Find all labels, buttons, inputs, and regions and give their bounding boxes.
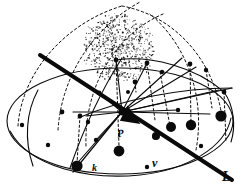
label-line-k: k [92,163,97,173]
stipple-mark [119,29,120,30]
stipple-mark [144,31,145,32]
stipple-mark [128,29,129,31]
stipple-mark [85,48,86,49]
stipple-mark [135,63,136,64]
stipple-mark [150,41,152,42]
stipple-mark [111,30,112,31]
stipple-mark [144,69,145,70]
stipple-mark [130,69,131,70]
stipple-mark [84,60,85,61]
stipple-mark [97,26,99,27]
stipple-mark [124,27,125,28]
stipple-mark [107,22,108,23]
stipple-mark [106,74,107,75]
stipple-mark [127,16,128,18]
stipple-mark [131,27,132,28]
stipple-mark [109,69,111,70]
stipple-mark [94,66,95,67]
stipple-mark [133,46,135,47]
dot-arc-10 [78,114,83,119]
dot-base-3 [46,143,50,147]
stipple-mark [97,37,98,39]
stipple-mark [144,41,145,42]
stipple-mark [100,55,101,56]
stipple-mark [100,22,101,23]
stipple-mark [118,49,119,50]
stipple-mark [121,38,122,40]
stipple-mark [113,27,114,28]
stipple-mark [98,22,99,23]
stipple-mark [149,54,150,55]
stipple-mark [121,73,122,75]
stipple-mark [148,49,149,51]
stipple-mark [108,27,109,28]
stipple-mark [89,54,90,55]
large-dot-4 [166,122,176,132]
stipple-mark [125,37,126,38]
stipple-mark [126,43,127,44]
stipple-mark [138,40,139,41]
stipple-mark [104,23,106,24]
stipple-mark [92,45,93,46]
stipple-mark [110,48,112,50]
stipple-mark [139,59,141,61]
stipple-mark [126,30,128,31]
stipple-mark [118,70,120,71]
stipple-mark [140,37,141,38]
stipple-mark [115,73,116,74]
stipple-mark [131,50,132,51]
stipple-mark [142,53,143,54]
stipple-mark [109,72,110,73]
stipple-mark [114,45,115,46]
stipple-mark [102,25,103,26]
stipple-mark [134,34,135,35]
dot-arc-4 [188,62,193,67]
stipple-mark [135,69,136,70]
stipple-mark [116,46,117,48]
stipple-mark [115,37,116,39]
stipple-mark [129,61,130,63]
stipple-mark [126,45,127,46]
ray-7 [122,112,210,114]
stipple-mark [134,49,136,50]
stipple-mark [146,57,147,58]
stipple-mark [102,29,104,30]
stipple-mark [112,47,114,49]
stipple-mark [138,48,139,50]
stipple-mark [131,57,132,58]
stipple-mark [145,52,146,53]
stipple-mark [138,60,139,62]
stipple-mark [119,56,120,57]
stipple-mark [92,50,94,51]
stipple-mark [121,72,122,73]
stipple-mark [106,38,108,39]
drop-7 [77,116,80,163]
stipple-mark [102,73,103,74]
stipple-mark [86,51,87,52]
stipple-mark [126,47,127,48]
stipple-mark [103,69,104,70]
stipple-mark [114,13,115,14]
stipple-mark [144,64,145,65]
stipple-mark [114,73,115,75]
stipple-mark [90,43,92,44]
stipple-mark [122,36,124,37]
stipple-mark [129,77,130,78]
stipple-mark [127,79,128,80]
stipple-mark [127,38,128,39]
stipple-mark [135,24,137,25]
stipple-mark [110,77,111,78]
stipple-mark [121,75,122,76]
stipple-mark [120,37,121,38]
stipple-mark [119,35,120,36]
stipple-mark [125,52,126,54]
stipple-mark [119,59,120,60]
stipple-mark [140,33,141,34]
stipple-mark [88,33,90,34]
stipple-mark [98,50,99,51]
stipple-mark [99,63,101,64]
stipple-mark [139,32,140,33]
stipple-mark [137,35,138,36]
stipple-mark [99,60,100,61]
stipple-mark [133,38,135,39]
